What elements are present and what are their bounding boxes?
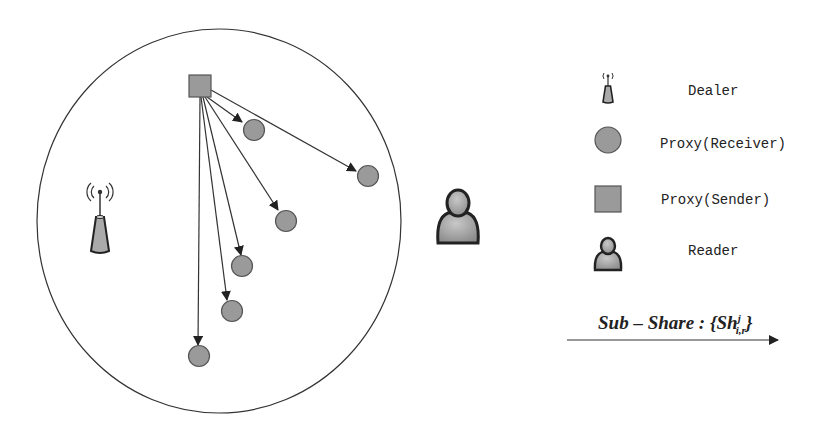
receiver-node [222,301,243,322]
legend-circle-node-icon [595,127,621,153]
receiver-node [276,211,297,232]
coverage-region [37,29,401,413]
sub-share-sup: j [738,312,741,324]
diagram-canvas [0,0,822,433]
receiver-node [358,166,379,187]
reader-person-icon [438,190,479,243]
proxy-sender-node [189,75,211,97]
sub-share-text: Sub – Share : {Sh [598,312,738,333]
sub-share-sub: i,r [736,324,746,336]
legend-label-proxy-receiver: Proxy(Receiver) [660,136,786,152]
legend-label-proxy-sender: Proxy(Sender) [661,192,770,208]
sub-share-close: } [746,312,753,333]
receiver-node [244,120,265,141]
legend-label-reader: Reader [688,243,738,259]
sub-share-label: Sub – Share : {Shji,r} [598,312,752,336]
receiver-node [232,256,253,277]
receiver-node [189,346,210,367]
legend-antenna-icon [603,73,613,103]
legend-square-node-icon [595,186,621,212]
legend-person-icon [595,238,621,270]
legend-label-dealer: Dealer [688,83,738,99]
dealer-antenna-icon [87,183,113,253]
